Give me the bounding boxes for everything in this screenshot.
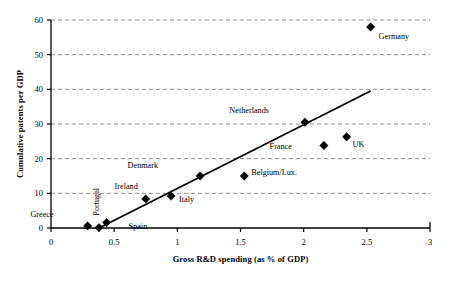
data-point-uk[interactable] — [342, 133, 350, 141]
x-tick-label-1: 1 — [175, 237, 179, 247]
x-tick-label-2.5: 2.5 — [362, 237, 373, 247]
x-axis-title: Gross R&D spending (as % of GDP) — [173, 254, 309, 264]
point-label-spain: Spain — [129, 222, 148, 231]
scatter-chart-figure: 010203040506000.511.522.53 GreecePortuga… — [0, 0, 459, 281]
x-tick-label-0.5: 0.5 — [109, 237, 120, 247]
data-point-belgium-lux[interactable] — [240, 172, 248, 180]
point-label-ireland: Ireland — [115, 182, 138, 191]
data-point-ireland[interactable] — [142, 195, 150, 203]
x-tick-label-3: 3 — [428, 237, 432, 247]
y-tick-label-30: 30 — [35, 119, 44, 129]
point-label-netherlands: Netherlands — [229, 106, 269, 115]
y-tick-label-20: 20 — [35, 154, 44, 164]
data-point-france[interactable] — [320, 141, 328, 149]
point-label-belgium-lux: Belgium/Lux. — [251, 168, 297, 177]
plot-area: 010203040506000.511.522.53 GreecePortuga… — [0, 0, 459, 281]
y-tick-label-10: 10 — [35, 188, 44, 198]
point-labels-group: GreecePortugalSpainIrelandItalyDenmarkBe… — [30, 32, 410, 232]
point-label-uk: UK — [353, 140, 365, 149]
point-label-france: France — [270, 142, 293, 151]
axis-titles-group: Gross R&D spending (as % of GDP)Cumulati… — [15, 70, 308, 264]
data-point-portugal[interactable] — [95, 223, 103, 231]
ticks-group — [47, 20, 430, 232]
point-label-greece: Greece — [30, 210, 54, 219]
y-axis-title: Cumulative patents per GDP — [15, 70, 25, 178]
y-tick-label-60: 60 — [35, 15, 44, 25]
point-label-germany: Germany — [379, 32, 410, 41]
y-tick-label-0: 0 — [39, 223, 43, 233]
x-tick-label-1.5: 1.5 — [235, 237, 246, 247]
y-tick-label-50: 50 — [35, 50, 44, 60]
x-tick-label-0: 0 — [49, 237, 53, 247]
data-point-greece[interactable] — [83, 222, 91, 230]
point-label-denmark: Denmark — [128, 161, 159, 170]
data-point-germany[interactable] — [366, 23, 374, 31]
y-tick-label-40: 40 — [35, 84, 44, 94]
data-points-group — [83, 23, 374, 232]
point-label-italy: Italy — [179, 195, 195, 204]
point-label-portugal: Portugal — [92, 187, 101, 215]
x-tick-label-2: 2 — [302, 237, 306, 247]
